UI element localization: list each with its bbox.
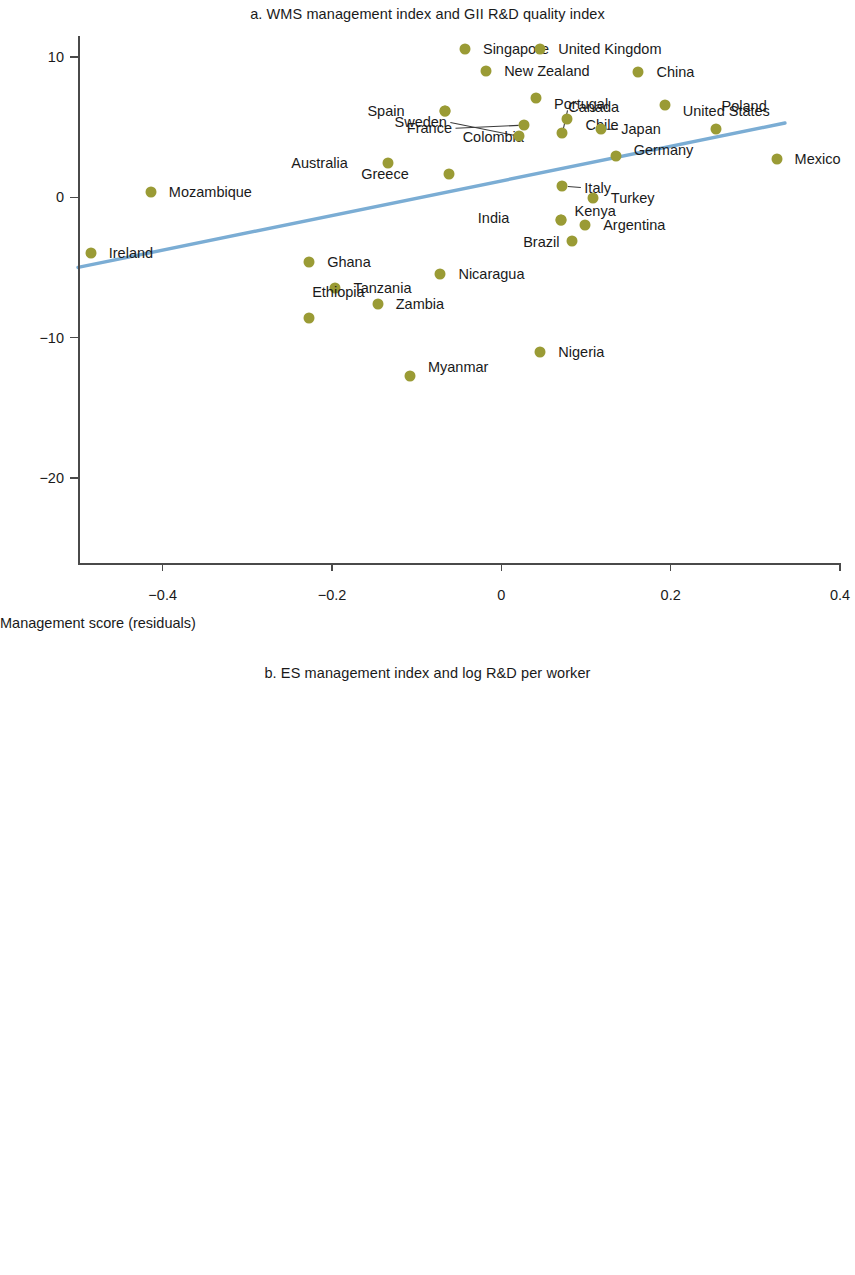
- data-point-label: Brazil: [523, 234, 559, 250]
- x-axis-tick-label: 0.2: [661, 587, 681, 603]
- y-axis-tick: [70, 477, 78, 479]
- data-point[interactable]: [587, 193, 598, 204]
- data-point-label: Sweden: [395, 114, 447, 130]
- data-point[interactable]: [659, 100, 670, 111]
- data-point[interactable]: [710, 124, 721, 135]
- label-leader-line: [568, 187, 581, 188]
- x-axis-tick-label: −0.4: [148, 587, 177, 603]
- data-point-label: Nigeria: [558, 344, 604, 360]
- data-point[interactable]: [580, 220, 591, 231]
- data-point[interactable]: [304, 256, 315, 267]
- data-point-label: Nicaragua: [458, 266, 524, 282]
- x-axis-tick: [670, 563, 672, 571]
- plot-overlay: [0, 640, 855, 1275]
- x-axis-tick: [331, 563, 333, 571]
- y-axis-tick-label: 10: [20, 49, 64, 65]
- x-axis-tick: [501, 563, 503, 571]
- data-point-label: Ethiopia: [312, 284, 364, 300]
- data-point[interactable]: [459, 44, 470, 55]
- data-point-label: United Kingdom: [558, 41, 661, 57]
- data-point[interactable]: [443, 169, 454, 180]
- data-point-label: India: [478, 210, 509, 226]
- data-point-label: Zambia: [396, 296, 444, 312]
- data-point[interactable]: [404, 371, 415, 382]
- x-axis-tick: [162, 563, 164, 571]
- data-point[interactable]: [557, 181, 568, 192]
- chart-panel-b: b. ES management index and log R&D per w…: [0, 640, 855, 1275]
- y-axis-tick-label: 0: [20, 189, 64, 205]
- data-point-label: Canada: [568, 99, 619, 115]
- data-point[interactable]: [435, 268, 446, 279]
- data-point[interactable]: [566, 235, 577, 246]
- data-point[interactable]: [633, 67, 644, 78]
- x-axis-tick-label: 0.4: [830, 587, 850, 603]
- y-axis-tick: [70, 56, 78, 58]
- data-point[interactable]: [372, 298, 383, 309]
- data-point[interactable]: [304, 312, 315, 323]
- data-point-label: Mexico: [795, 151, 841, 167]
- data-point[interactable]: [771, 153, 782, 164]
- data-point[interactable]: [535, 43, 546, 54]
- x-axis-tick-label: 0: [497, 587, 505, 603]
- data-point[interactable]: [556, 215, 567, 226]
- data-point[interactable]: [514, 131, 525, 142]
- data-point[interactable]: [519, 120, 530, 131]
- data-point-label: Ireland: [109, 245, 153, 261]
- data-point-label: Poland: [722, 98, 767, 114]
- data-point-label: Ghana: [327, 254, 371, 270]
- data-point[interactable]: [145, 186, 156, 197]
- data-point-label: Argentina: [603, 217, 665, 233]
- data-point-label: China: [657, 64, 695, 80]
- data-point-label: Japan: [621, 121, 661, 137]
- data-point-label: Mozambique: [169, 184, 252, 200]
- data-point[interactable]: [535, 346, 546, 357]
- x-axis-line: [78, 563, 840, 565]
- y-axis-line: [78, 36, 80, 563]
- y-axis-tick: [70, 197, 78, 199]
- chart-panel-a: a. WMS management index and GII R&D qual…: [0, 0, 855, 640]
- data-point-label: Greece: [361, 166, 409, 182]
- data-point-label: New Zealand: [504, 63, 589, 79]
- data-point[interactable]: [481, 66, 492, 77]
- x-axis-tick-label: −0.2: [318, 587, 347, 603]
- y-axis-tick-label: −10: [20, 330, 64, 346]
- data-point-label: Kenya: [575, 203, 616, 219]
- y-axis-tick-label: −20: [20, 470, 64, 486]
- data-point-label: Turkey: [611, 190, 655, 206]
- data-point[interactable]: [85, 247, 96, 258]
- data-point[interactable]: [557, 128, 568, 139]
- y-axis-tick: [70, 337, 78, 339]
- data-point[interactable]: [610, 150, 621, 161]
- data-point[interactable]: [531, 93, 542, 104]
- data-point-label: Myanmar: [428, 359, 488, 375]
- data-point-label: Australia: [291, 155, 347, 171]
- data-point[interactable]: [596, 124, 607, 135]
- x-axis-tick: [839, 563, 841, 571]
- plot-overlay: [0, 0, 855, 640]
- data-point-label: Germany: [634, 142, 694, 158]
